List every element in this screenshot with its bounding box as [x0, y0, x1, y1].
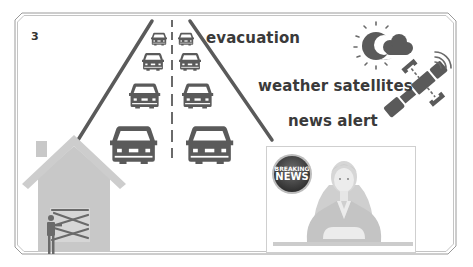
badge-text: BREAKING NEWS: [271, 153, 313, 195]
label-evacuation: evacuation: [206, 29, 300, 47]
sun-moon-cloud-weather-icon: [354, 22, 413, 69]
breaking-news-badge: BREAKING NEWS: [271, 153, 313, 195]
label-weather-satellites: weather satellites: [258, 77, 413, 95]
label-news-alert: news alert: [288, 112, 378, 130]
badge-line-news: NEWS: [275, 172, 308, 182]
house-boarded-door-icon: [22, 135, 126, 254]
slide-card: 3: [14, 12, 457, 255]
